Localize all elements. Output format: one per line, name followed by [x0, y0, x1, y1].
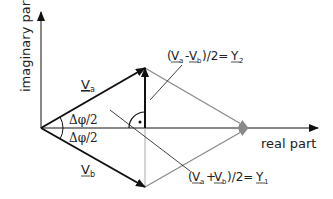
svg-text:1: 1: [264, 178, 268, 186]
right-angle-dot: [139, 121, 142, 124]
svg-text:a: a: [179, 57, 183, 65]
svg-text:a: a: [90, 85, 95, 94]
svg-text:b: b: [90, 170, 95, 179]
svg-text:a: a: [200, 178, 204, 186]
y1-formula: ( V a + V b )/2= Y 1: [188, 170, 268, 186]
phasor-diagram: imaginary part real part V a V b Δφ/2 Δφ…: [0, 0, 333, 199]
y2-leader-line: [150, 65, 182, 100]
svg-text:)/2=: )/2=: [227, 170, 253, 184]
y-axis-label: imaginary part: [18, 0, 33, 92]
svg-text:)/2=: )/2=: [202, 49, 228, 63]
svg-text:2: 2: [239, 57, 243, 65]
svg-text:V: V: [81, 77, 90, 92]
angle-label-upper: Δφ/2: [69, 113, 98, 127]
angle-arc-upper: [60, 117, 63, 128]
angle-arc-lower: [60, 128, 63, 139]
va-label: V a: [81, 77, 95, 94]
svg-text:V: V: [81, 162, 90, 177]
y1-leader-line: [110, 110, 190, 171]
svg-text:Y: Y: [230, 49, 239, 63]
right-angle-marker: [129, 112, 145, 128]
parallelogram-upper-edge: [145, 68, 248, 128]
svg-text:Y: Y: [255, 170, 264, 184]
vb-label: V b: [81, 162, 95, 179]
angle-label-lower: Δφ/2: [69, 131, 98, 145]
x-axis-label: real part: [261, 136, 316, 151]
y2-formula: ( V a - V b )/2= Y 2: [167, 49, 243, 65]
